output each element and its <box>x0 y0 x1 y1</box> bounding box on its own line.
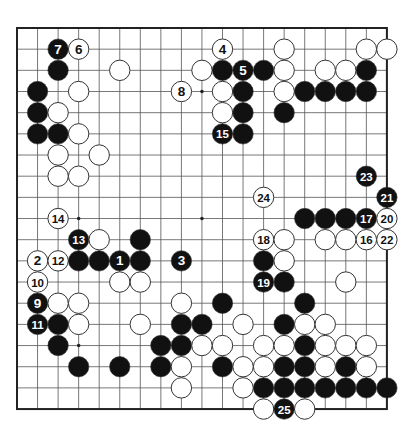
stone-disc <box>377 378 397 398</box>
stone-disc <box>89 251 109 271</box>
white-stone-move-14: 14 <box>48 208 68 228</box>
black-stone <box>48 335 68 355</box>
stone-disc <box>130 272 150 292</box>
stone-disc <box>253 60 273 80</box>
stone-disc <box>171 357 191 377</box>
black-stone <box>171 314 191 334</box>
black-stone <box>274 378 294 398</box>
move-number-label: 3 <box>178 253 186 268</box>
move-number-label: 16 <box>360 234 373 246</box>
stone-disc <box>315 357 335 377</box>
black-stone <box>27 81 47 101</box>
white-stone <box>68 124 88 144</box>
white-stone-move-24: 24 <box>253 187 273 207</box>
stone-disc <box>130 251 150 271</box>
white-stone <box>48 293 68 313</box>
stone-disc <box>274 251 294 271</box>
black-stone <box>89 251 109 271</box>
stone-disc <box>336 378 356 398</box>
move-number-label: 4 <box>219 42 227 57</box>
black-stone <box>48 60 68 80</box>
stone-disc <box>274 335 294 355</box>
stone-disc <box>27 124 47 144</box>
stone-disc <box>274 81 294 101</box>
black-stone <box>336 208 356 228</box>
white-stone-move-18: 18 <box>253 230 273 250</box>
move-number-label: 21 <box>381 192 394 204</box>
move-number-label: 6 <box>75 42 83 57</box>
white-stone <box>171 293 191 313</box>
stone-disc <box>336 60 356 80</box>
black-stone <box>295 208 315 228</box>
stone-disc <box>315 208 335 228</box>
black-stone <box>295 378 315 398</box>
white-stone <box>356 335 376 355</box>
black-stone <box>68 357 88 377</box>
stone-disc <box>356 81 376 101</box>
white-stone <box>274 39 294 59</box>
stone-disc <box>233 81 253 101</box>
stone-disc <box>253 357 273 377</box>
stone-disc <box>110 357 130 377</box>
black-stone-move-23: 23 <box>356 166 376 186</box>
black-stone-move-1: 1 <box>110 251 130 271</box>
stone-disc <box>356 378 376 398</box>
stone-disc <box>171 314 191 334</box>
stone-disc <box>48 60 68 80</box>
white-stone <box>377 39 397 59</box>
white-stone <box>253 335 273 355</box>
black-stone <box>233 124 253 144</box>
black-stone <box>48 314 68 334</box>
white-stone <box>356 39 376 59</box>
white-stone <box>233 314 253 334</box>
white-stone <box>315 314 335 334</box>
black-stone <box>192 314 212 334</box>
white-stone <box>356 357 376 377</box>
stone-disc <box>68 293 88 313</box>
stone-disc <box>233 378 253 398</box>
stone-disc <box>274 357 294 377</box>
move-number-label: 12 <box>52 255 65 267</box>
stone-disc <box>356 335 376 355</box>
black-stone <box>48 124 68 144</box>
black-stone <box>233 81 253 101</box>
move-number-label: 9 <box>34 296 42 311</box>
stone-disc <box>274 102 294 122</box>
black-stone <box>336 378 356 398</box>
black-stone <box>315 378 335 398</box>
black-stone <box>356 81 376 101</box>
stone-disc <box>253 251 273 271</box>
white-stone <box>212 102 232 122</box>
move-number-label: 7 <box>54 42 62 57</box>
stone-disc <box>171 293 191 313</box>
stone-disc <box>295 335 315 355</box>
white-stone <box>315 230 335 250</box>
white-stone <box>212 335 232 355</box>
white-stone <box>68 293 88 313</box>
move-number-label: 5 <box>239 63 247 78</box>
white-stone-move-22: 22 <box>377 230 397 250</box>
stone-disc <box>253 399 273 419</box>
star-point <box>77 217 81 221</box>
white-stone <box>274 335 294 355</box>
move-number-label: 1 <box>116 253 124 268</box>
stone-disc <box>89 230 109 250</box>
black-stone <box>212 60 232 80</box>
stone-disc <box>151 357 171 377</box>
black-stone <box>356 378 376 398</box>
move-number-label: 8 <box>178 84 186 99</box>
white-stone <box>274 60 294 80</box>
white-stone <box>253 357 273 377</box>
move-number-label: 22 <box>381 234 394 246</box>
stone-disc <box>130 314 150 334</box>
black-stone-move-25: 25 <box>274 399 294 419</box>
stone-disc <box>315 60 335 80</box>
stone-disc <box>274 39 294 59</box>
stone-disc <box>212 60 232 80</box>
move-number-label: 23 <box>360 171 373 183</box>
stone-disc <box>274 60 294 80</box>
white-stone <box>48 166 68 186</box>
white-stone <box>192 60 212 80</box>
white-stone <box>336 230 356 250</box>
stone-disc <box>171 335 191 355</box>
